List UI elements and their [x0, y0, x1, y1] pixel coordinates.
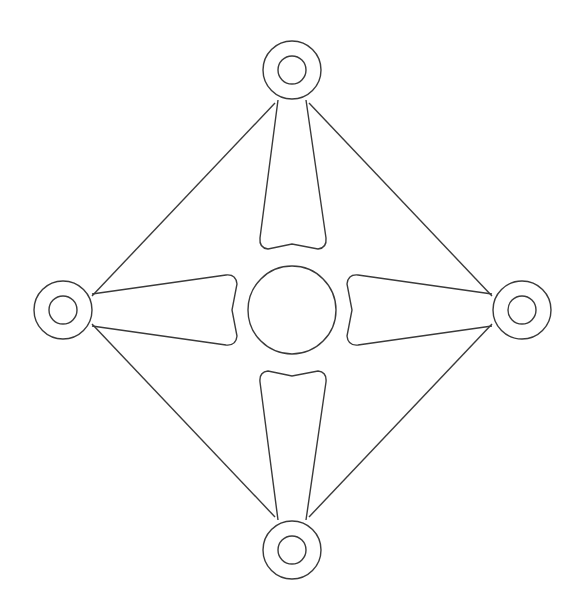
ring-left — [34, 281, 92, 339]
spoke-left — [92, 275, 237, 345]
ring-top — [263, 41, 321, 99]
spoke-right — [347, 275, 492, 345]
spoke-top — [260, 100, 326, 249]
center-circle — [248, 266, 336, 354]
diamond-frame — [92, 103, 492, 517]
ring-right — [493, 281, 551, 339]
compass-diagram — [0, 0, 585, 612]
spokes — [92, 100, 492, 520]
spoke-bottom — [260, 371, 326, 520]
ring-bottom — [263, 521, 321, 579]
